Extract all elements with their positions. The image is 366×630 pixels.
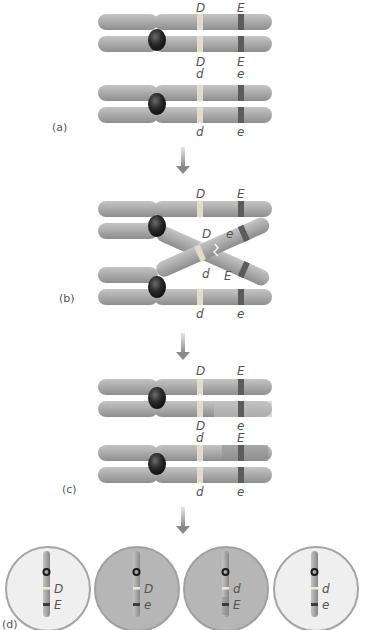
allele-label: E [237, 1, 245, 15]
band-e [238, 85, 244, 101]
chromatid-right-arm [154, 107, 272, 123]
allele-label: d [196, 125, 204, 139]
centromere [148, 215, 166, 237]
centromere [148, 387, 166, 409]
allele-label: d [202, 267, 210, 281]
band-E [238, 445, 244, 461]
chromatid-left-arm [98, 379, 158, 395]
allele-label: d [196, 431, 204, 445]
gamete-cell-2: D e [95, 547, 179, 630]
allele-label: d [233, 582, 241, 596]
gamete-cell-4: d e [274, 547, 358, 630]
band-e [133, 603, 140, 606]
panel-label-d: (d) [2, 618, 18, 630]
chromatid-right-arm [154, 467, 272, 483]
band-e [238, 107, 244, 123]
band-d [222, 587, 229, 590]
chromatid-left-arm [98, 107, 158, 123]
chromatid-left-arm [98, 201, 158, 217]
arrow-down-icon [176, 507, 190, 534]
panel-a: D E D E d e d e (a) [52, 1, 272, 139]
band-d [197, 107, 203, 123]
band-d [197, 445, 203, 461]
panel-label-b: (b) [59, 292, 75, 305]
arrow-down-icon [176, 333, 190, 360]
allele-label: D [202, 227, 211, 241]
chromosome [311, 551, 318, 617]
band-D [197, 401, 203, 417]
chromatid-right-arm [154, 14, 272, 30]
chromatid-right-arm [154, 289, 272, 305]
arrow-down-icon [176, 147, 190, 174]
band-e [238, 467, 244, 483]
allele-label: D [196, 187, 205, 201]
crossing-over-diagram: D E D E d e d e (a) D E [0, 0, 366, 630]
allele-label: e [237, 125, 244, 139]
gamete-cell-1: D E [6, 547, 90, 630]
allele-label: d [196, 485, 204, 499]
chromosome [133, 551, 140, 617]
gamete-cell-3: d E [184, 547, 268, 630]
chromatid-right-arm [154, 36, 272, 52]
chromatid-right-arm [154, 201, 272, 217]
band-E [238, 379, 244, 395]
band-e [311, 603, 318, 606]
band-E [238, 201, 244, 217]
band-E [238, 14, 244, 30]
homolog-de: d e d e [98, 67, 272, 139]
band-D [133, 587, 140, 590]
chromatid-left-arm [98, 267, 158, 283]
allele-label: e [237, 67, 244, 81]
allele-label: E [224, 269, 232, 283]
chromosome [43, 551, 50, 617]
allele-label: E [233, 598, 241, 612]
band-d [197, 85, 203, 101]
band-D [197, 379, 203, 395]
band-d [197, 289, 203, 305]
chromatid-left-arm [98, 445, 158, 461]
band-d [197, 467, 203, 483]
allele-label: e [226, 227, 233, 241]
allele-label: E [54, 598, 62, 612]
swapped-segment [222, 445, 268, 461]
centromere [148, 276, 166, 298]
band-D [197, 201, 203, 217]
band-E [222, 603, 229, 606]
allele-label: d [322, 582, 330, 596]
band-D [43, 587, 50, 590]
panel-label-a: (a) [52, 121, 67, 134]
allele-label: e [144, 598, 151, 612]
band-d [311, 587, 318, 590]
allele-label: d [196, 67, 204, 81]
band-e [238, 401, 244, 417]
panel-b: D E D e d E d e [59, 187, 272, 321]
allele-label: e [237, 485, 244, 499]
centromere [148, 453, 166, 475]
allele-label: D [196, 364, 205, 378]
band-D [197, 36, 203, 52]
allele-label: E [237, 187, 245, 201]
band-e [238, 289, 244, 305]
allele-label: e [322, 598, 329, 612]
allele-label: D [196, 1, 205, 15]
allele-label: d [196, 307, 204, 321]
panel-label-c: (c) [62, 483, 77, 496]
allele-label: E [237, 431, 245, 445]
chromatid-left-arm [98, 14, 158, 30]
chromatid-right-arm [154, 85, 272, 101]
panel-d: D E D e d E [2, 547, 358, 630]
chromatid-right-arm [154, 379, 272, 395]
centromere [148, 29, 166, 51]
homolog-DE: D E D E [98, 1, 272, 69]
allele-label: D [54, 582, 63, 596]
allele-label: e [237, 307, 244, 321]
chromatid-left-arm [98, 85, 158, 101]
allele-label: E [237, 364, 245, 378]
centromere [148, 93, 166, 115]
band-E [238, 36, 244, 52]
band-D [197, 14, 203, 30]
chromatid-left-arm [98, 467, 158, 483]
allele-label: D [144, 582, 153, 596]
band-E [43, 603, 50, 606]
panel-c: D E D e d E d e (c) [62, 364, 272, 499]
